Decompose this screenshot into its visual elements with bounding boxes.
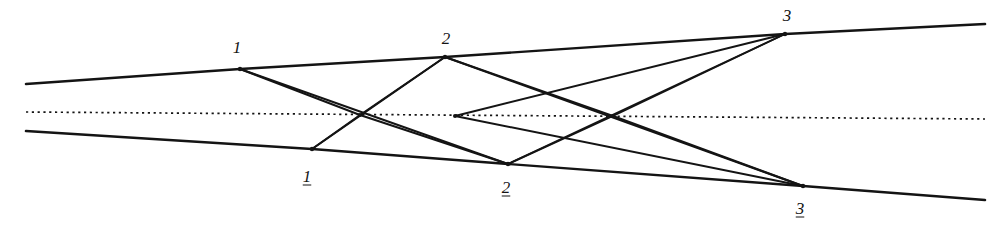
ray-m2-to-m3 <box>508 164 803 186</box>
lower-incoming-ray <box>26 131 312 149</box>
upper-incoming-ray <box>26 69 240 84</box>
node-dot-m3 <box>801 184 805 188</box>
upper-outgoing-ray <box>785 24 985 34</box>
ray-axis-a1-to-n2 <box>360 57 445 115</box>
node-dot-m1 <box>310 147 314 151</box>
rays-group <box>26 24 985 200</box>
ray-diagram-figure: 123123 <box>0 0 1002 228</box>
node-label-n3: 3 <box>783 7 792 24</box>
ray-axis-a2-to-m3 <box>455 116 803 186</box>
node-label-n2: 2 <box>442 30 451 47</box>
ray-axis-a3-to-m3 <box>613 116 803 186</box>
node-dot-m2 <box>506 162 510 166</box>
node-dot-a3 <box>611 114 615 118</box>
optical-axis-group <box>26 112 985 119</box>
node-dot-a2 <box>453 114 457 118</box>
optical-axis <box>26 112 985 119</box>
node-dot-a1 <box>358 113 362 117</box>
node-label-m1: 1 <box>303 168 312 185</box>
node-dot-n3 <box>783 32 787 36</box>
ray-axis-a3-to-n3 <box>613 34 785 116</box>
node-dot-n2 <box>443 55 447 59</box>
node-label-m3: 3 <box>796 200 805 217</box>
node-label-n1: 1 <box>233 39 242 56</box>
ray-n2-to-n3 <box>445 34 785 57</box>
node-label-m2: 2 <box>502 179 511 196</box>
ray-m1-to-m2 <box>312 149 508 164</box>
node-dot-n1 <box>238 67 242 71</box>
lower-outgoing-ray <box>803 186 985 200</box>
ray-n1-to-n2 <box>240 57 445 69</box>
